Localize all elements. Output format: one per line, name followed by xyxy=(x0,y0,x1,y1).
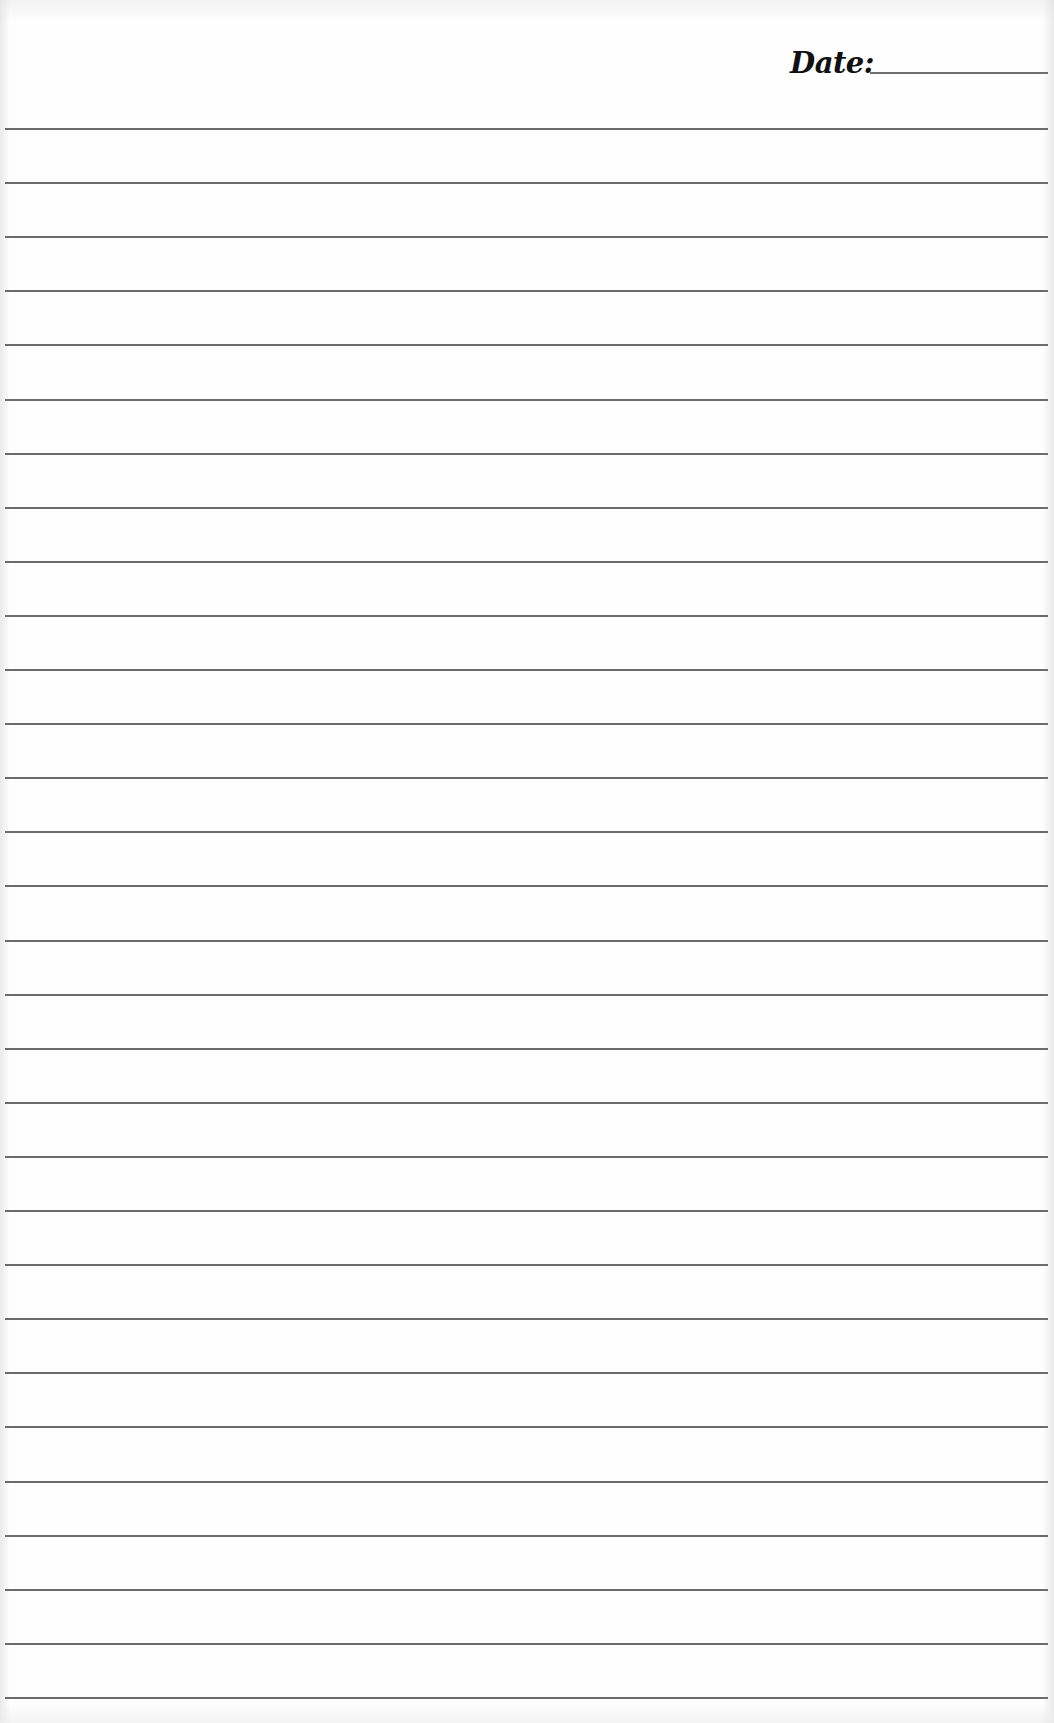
ruled-line xyxy=(5,994,1048,996)
ruled-line xyxy=(5,885,1048,887)
notebook-page: Date: xyxy=(0,0,1054,1723)
ruled-line xyxy=(5,236,1048,238)
ruled-line xyxy=(5,1264,1048,1266)
ruled-line xyxy=(5,1697,1048,1699)
ruled-line xyxy=(5,723,1048,725)
ruled-line xyxy=(5,1048,1048,1050)
ruled-line xyxy=(5,453,1048,455)
ruled-line xyxy=(5,561,1048,563)
ruled-line xyxy=(5,290,1048,292)
ruled-line xyxy=(5,669,1048,671)
ruled-line xyxy=(5,1643,1048,1645)
ruled-line xyxy=(5,399,1048,401)
ruled-lines xyxy=(0,0,1054,1723)
ruled-line xyxy=(5,1156,1048,1158)
ruled-line xyxy=(5,1589,1048,1591)
ruled-line xyxy=(5,831,1048,833)
ruled-line xyxy=(5,1318,1048,1320)
ruled-line xyxy=(5,344,1048,346)
ruled-line xyxy=(5,1210,1048,1212)
ruled-line xyxy=(5,1481,1048,1483)
ruled-line xyxy=(5,1426,1048,1428)
ruled-line xyxy=(5,182,1048,184)
ruled-line xyxy=(5,777,1048,779)
ruled-line xyxy=(5,128,1048,130)
ruled-line xyxy=(5,940,1048,942)
ruled-line xyxy=(5,507,1048,509)
ruled-line xyxy=(5,615,1048,617)
ruled-line xyxy=(5,1535,1048,1537)
ruled-line xyxy=(5,1372,1048,1374)
ruled-line xyxy=(5,1102,1048,1104)
